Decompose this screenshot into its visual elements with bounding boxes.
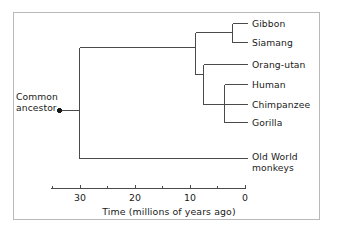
common-ancestor-label-line2: ancestor xyxy=(16,102,57,113)
tip-label-gorilla: Gorilla xyxy=(252,118,283,129)
tip-label-human: Human xyxy=(252,80,286,91)
tip-label-orang-utan: Orang-utan xyxy=(252,60,306,71)
tip-label-siamang: Siamang xyxy=(252,38,293,49)
tip-label-old-world-monkeys-line1: Old World xyxy=(252,151,298,162)
axis-tick-label-20: 20 xyxy=(129,192,141,203)
tip-label-gibbon: Gibbon xyxy=(252,19,285,30)
tip-label-old-world-monkeys-line2: monkeys xyxy=(252,162,294,173)
tip-label-chimpanzee: Chimpanzee xyxy=(252,100,310,111)
axis-title: Time (millions of years ago) xyxy=(0,206,338,217)
axis-tick-label-0: 0 xyxy=(242,192,248,203)
phylogenetic-tree-figure: Commonancestor Gibbon Siamang Orang-utan… xyxy=(0,0,338,235)
tree-branches xyxy=(0,0,338,235)
common-ancestor-label-line1: Common xyxy=(16,91,58,102)
common-ancestor-label: Commonancestor xyxy=(16,92,58,113)
axis-tick-label-10: 10 xyxy=(184,192,196,203)
tip-label-old-world-monkeys: Old Worldmonkeys xyxy=(252,152,298,173)
axis-tick-label-30: 30 xyxy=(74,192,86,203)
